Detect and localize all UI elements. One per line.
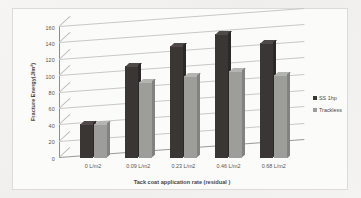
legend-item[interactable]: Trackless [313,107,342,113]
bar-face [170,46,183,158]
legend-label: Trackless [319,107,342,113]
y-tick-label: 100 [25,74,55,80]
bar-face [80,124,93,158]
chart-container: Fracture Energy(J/m²) 020406080100120140… [12,8,348,190]
bar-group [73,124,113,158]
x-tick-label: 0.68 L/m2 [243,163,305,169]
bar-face [94,124,107,158]
legend-swatch-icon [313,108,317,112]
bar-group [163,46,203,158]
bar-trackless [229,71,242,158]
gridline [59,8,304,27]
chart-legend: SS 1hpTrackless [313,95,342,119]
bar-trackless [94,124,107,158]
bar-face [125,66,138,158]
bar-trackless [274,75,287,159]
bar-face [184,76,197,158]
bar-face [229,71,242,158]
bar-side [107,120,110,157]
y-tick-label: 120 [25,57,55,63]
bar-ss1hp [170,46,183,158]
bar-ss1hp [260,43,273,158]
legend-item[interactable]: SS 1hp [313,95,342,101]
legend-label: SS 1hp [319,95,337,101]
bar-group [254,43,294,158]
bar-ss1hp [215,34,228,158]
bar-side [152,79,155,158]
bar-face [139,82,152,158]
y-tick-label: 160 [25,25,55,31]
y-tick-label: 40 [25,123,55,129]
bar-face [260,43,273,158]
bar-face [215,34,228,158]
y-tick-label: 20 [25,139,55,145]
bar-ss1hp [80,124,93,158]
legend-swatch-icon [313,96,317,100]
y-tick-label: 80 [25,90,55,96]
y-tick-label: 140 [25,41,55,47]
plot-area: 020406080100120140160 [59,27,305,158]
y-tick-label: 0 [25,156,55,162]
bar-side [197,73,200,157]
bar-ss1hp [125,66,138,158]
bar-face [274,75,287,159]
bar-side [287,71,290,157]
bar-trackless [139,82,152,158]
bar-group [118,66,158,158]
bar-side [242,68,245,157]
bar-trackless [184,76,197,158]
x-axis-title: Tack coat application rate (residual ) [59,179,305,185]
y-tick-label: 60 [25,106,55,112]
bar-group [209,34,249,158]
